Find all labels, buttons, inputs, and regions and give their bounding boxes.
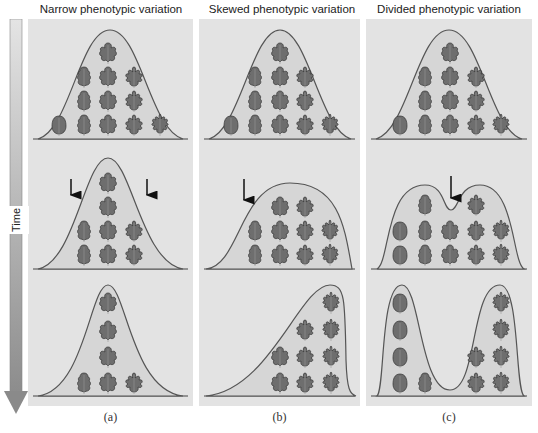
caption-c: (c)	[366, 410, 532, 425]
panel-b-row-3	[204, 285, 356, 396]
panel-a-row-2	[33, 158, 188, 269]
panel-c-row-2	[371, 176, 527, 269]
panel-c-row-1	[371, 30, 527, 139]
panel-a-row-1	[33, 30, 188, 139]
panel-c-row-3	[371, 285, 527, 396]
caption-b: (b)	[199, 410, 360, 425]
panel-b-row-1	[204, 30, 355, 139]
panel-a-row-3	[33, 285, 188, 396]
panel-b-row-2	[204, 179, 355, 269]
caption-a: (a)	[28, 410, 193, 425]
diagram-graphics	[0, 0, 538, 433]
